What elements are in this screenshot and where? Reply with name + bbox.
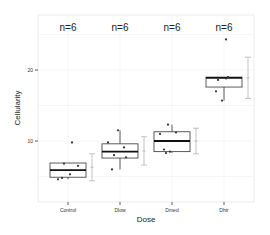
x-tick-label-dlow: Dlow <box>114 207 126 213</box>
x-tick-label-dhtr: Dhtr <box>219 207 229 213</box>
data-point <box>225 38 227 40</box>
data-point <box>57 178 59 180</box>
data-point <box>175 131 177 133</box>
data-point <box>111 168 113 170</box>
data-point <box>77 165 79 167</box>
data-point <box>167 124 169 126</box>
n-label: n=6 <box>216 22 233 33</box>
data-point <box>225 77 227 79</box>
y-axis-title: Cellularity <box>13 90 22 125</box>
data-point <box>227 76 229 78</box>
y-tick-label: 20 <box>27 67 33 73</box>
data-point <box>169 151 171 153</box>
data-point <box>215 90 217 92</box>
data-point <box>63 163 65 165</box>
data-point <box>125 156 127 158</box>
data-point <box>117 129 119 131</box>
data-point <box>69 173 71 175</box>
x-tick-label-control: Control <box>60 207 76 213</box>
boxplot-chart: 1020 ControlDlowDmedDhtr n=6n=6n=6n=6 Do… <box>0 0 270 235</box>
n-label: n=6 <box>60 22 77 33</box>
x-axis: ControlDlowDmedDhtr <box>60 202 229 213</box>
y-axis: 1020 <box>27 67 38 144</box>
x-tick-label-dmed: Dmed <box>165 207 179 213</box>
data-point <box>217 79 219 81</box>
data-point <box>107 141 109 143</box>
n-label: n=6 <box>164 22 181 33</box>
data-point <box>163 148 165 150</box>
x-axis-title: Dose <box>137 215 156 224</box>
data-point <box>221 99 223 101</box>
data-point <box>71 141 73 143</box>
data-point <box>61 177 63 179</box>
data-point <box>159 133 161 135</box>
n-label: n=6 <box>112 22 129 33</box>
data-point <box>123 146 125 148</box>
y-tick-label: 10 <box>27 138 33 144</box>
data-point <box>113 154 115 156</box>
data-point <box>165 152 167 154</box>
